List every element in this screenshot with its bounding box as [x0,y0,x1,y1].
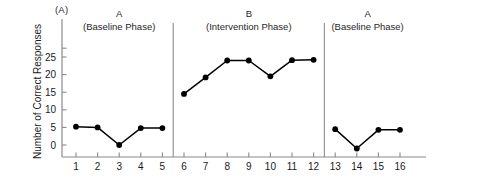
data-point-marker [376,127,382,133]
x-axis-tick-label: 9 [246,161,252,172]
y-axis-tick-label: 15 [45,87,57,98]
x-axis-tick-label: 8 [224,161,230,172]
x-axis-tick-label: 12 [308,161,320,172]
x-axis-tick-label: 7 [203,161,209,172]
y-axis-tick-label: 5 [50,122,56,133]
data-point-marker [160,125,166,131]
x-axis-tick-label: 16 [394,161,406,172]
y-axis-tick-label: 0 [50,140,56,151]
y-axis-tick-label: 10 [45,104,57,115]
x-axis-tick-label: 15 [373,161,385,172]
data-point-marker [73,124,79,130]
tick-labels-layer: 051015202512345678910111213141516 [45,52,406,172]
data-point-marker [116,142,122,148]
data-point-marker [332,126,338,132]
x-axis-tick-label: 5 [160,161,166,172]
figure-container: (A) Number of Correct Responses 05101520… [0,0,487,188]
x-axis-tick-label: 2 [95,161,101,172]
data-point-marker [397,127,403,133]
phase-name: A [298,8,438,21]
data-point-marker [95,125,101,131]
x-axis-tick-label: 4 [138,161,144,172]
phase-subtitle: (Baseline Phase) [298,21,438,34]
data-point-marker [246,58,252,64]
y-axis-tick-label: 25 [45,52,57,63]
series-line [335,129,400,148]
data-point-marker [289,57,295,63]
y-axis-tick-label: 20 [45,69,57,80]
x-axis-tick-label: 14 [351,161,363,172]
data-point-marker [224,58,230,64]
data-point-marker [268,73,274,79]
phase-dividers-layer [173,23,324,157]
phase-title: A(Baseline Phase) [49,8,189,33]
phase-name: A [49,8,189,21]
data-point-marker [138,125,144,131]
phase-title: A(Baseline Phase) [298,8,438,33]
x-axis-tick-label: 1 [73,161,79,172]
data-point-marker [311,57,317,63]
x-axis-tick-label: 6 [181,161,187,172]
x-axis-tick-label: 10 [265,161,277,172]
x-axis-tick-label: 11 [287,161,298,172]
x-axis-tick-label: 13 [330,161,342,172]
data-point-marker [354,146,360,152]
x-axis-tick-label: 3 [116,161,122,172]
data-series-layer [73,57,403,152]
data-point-marker [203,75,209,81]
data-point-marker [181,91,187,97]
phase-subtitle: (Baseline Phase) [49,21,189,34]
